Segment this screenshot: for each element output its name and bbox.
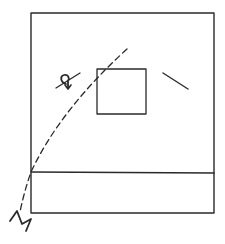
dashed-arc	[20, 49, 127, 212]
diagram-canvas	[0, 0, 225, 244]
inner-square	[97, 69, 146, 114]
right-stroke	[163, 73, 188, 89]
divider-line	[31, 172, 214, 173]
diagram-svg	[0, 0, 225, 244]
outer-frame	[31, 13, 214, 213]
zigzag-break-icon	[10, 211, 31, 231]
